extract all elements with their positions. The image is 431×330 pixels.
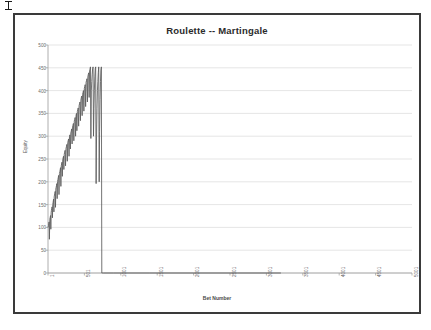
x-axis-tick: 3501 [304, 267, 309, 277]
text-cursor-artifact [8, 1, 9, 10]
x-axis-tick: 4001 [341, 267, 346, 277]
x-axis-tick-labels: 1501100115012001250130013501400145015001 [15, 15, 419, 312]
x-axis-tick: 2001 [195, 267, 200, 277]
x-axis-tick: 5001 [414, 267, 419, 277]
x-axis-tick: 2501 [232, 267, 237, 277]
plot-area: Equity Bet Number 0501001502002503003504… [15, 15, 419, 312]
x-axis-tick: 1 [50, 274, 55, 277]
x-axis-tick: 1501 [159, 267, 164, 277]
chart-frame: Roulette -- Martingale Equity Bet Number… [13, 13, 421, 314]
x-axis-tick: 1001 [122, 267, 127, 277]
x-axis-tick: 3001 [268, 267, 273, 277]
x-axis-tick: 4501 [377, 267, 382, 277]
x-axis-tick: 501 [86, 269, 91, 277]
